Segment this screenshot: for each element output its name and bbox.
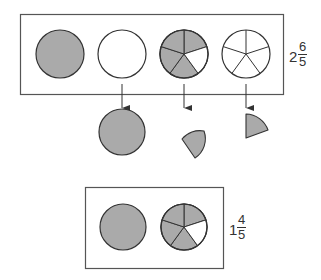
bottom-whole-circle xyxy=(100,204,146,250)
bottom-pie-four-fifths xyxy=(161,204,207,250)
top-mixed-number-label: 2 6 5 xyxy=(289,40,313,70)
top-pie-four-fifths xyxy=(160,30,208,78)
bottom-mixed-number-label: 1 4 5 xyxy=(229,213,253,243)
top-label-numerator: 6 xyxy=(299,41,306,53)
middle-wedge-2 xyxy=(246,114,268,138)
bottom-label-denominator: 5 xyxy=(238,229,245,241)
top-whole-circle-shaded xyxy=(36,30,84,78)
top-label-fraction: 6 5 xyxy=(298,41,307,68)
middle-wedge-1 xyxy=(182,131,205,158)
top-whole-circle-empty xyxy=(98,30,146,78)
top-pie-empty xyxy=(222,30,270,78)
bottom-label-fraction: 4 5 xyxy=(237,214,246,241)
fraction-diagram xyxy=(0,0,321,280)
bottom-label-numerator: 4 xyxy=(238,214,245,226)
middle-whole-circle xyxy=(99,109,145,155)
top-label-whole: 2 xyxy=(289,48,297,65)
top-label-denominator: 5 xyxy=(299,56,306,68)
